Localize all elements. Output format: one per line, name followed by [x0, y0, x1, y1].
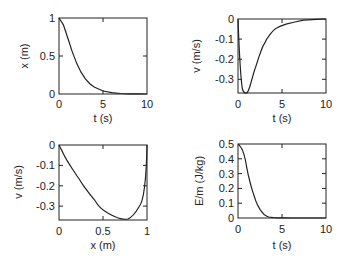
y-axis-label: E/m (J/kg) [193, 156, 205, 206]
data-curve [238, 19, 326, 93]
y-tick-label: -0.2 [215, 53, 234, 65]
y-tick-label: -0.3 [36, 200, 55, 212]
y-tick-label: 0.3 [219, 168, 234, 180]
y-axis-label: v (m/s) [12, 165, 24, 199]
y-tick-label: 0 [49, 88, 55, 100]
x-axis-label: x (m) [90, 239, 115, 251]
plot-frame [59, 145, 147, 220]
x-axis-label: t (s) [273, 239, 292, 251]
plot-frame [59, 18, 147, 94]
tick-marks [238, 144, 326, 218]
y-tick-label: 0 [228, 212, 234, 224]
x-tick-label: 0 [56, 225, 62, 237]
x-axis-label: t (s) [94, 112, 113, 124]
y-tick-label: 0 [49, 139, 55, 151]
y-axis-label: x (m) [18, 43, 30, 68]
panel-v-vs-t: 0 -0.1 -0.2 -0.3 0 5 10 t (s) v (m/s) [190, 13, 332, 124]
x-tick-label: 10 [320, 223, 332, 235]
x-tick-label: 0 [235, 98, 241, 110]
y-tick-label: 0.4 [219, 153, 234, 165]
tick-marks [59, 145, 147, 220]
y-tick-label: -0.1 [36, 159, 55, 171]
x-tick-label: 0.5 [95, 225, 110, 237]
y-axis-label: v (m/s) [190, 39, 202, 73]
x-tick-label: 0 [235, 223, 241, 235]
y-tick-label: 0 [228, 13, 234, 25]
x-tick-label: 10 [320, 98, 332, 110]
data-curve [238, 144, 326, 218]
y-tick-label: 1 [49, 12, 55, 24]
y-tick-label: 0.2 [219, 182, 234, 194]
y-tick-label: 0.1 [219, 197, 234, 209]
panel-energy-vs-t: 0.5 0.4 0.3 0.2 0.1 0 0 5 10 t (s) E/m (… [193, 138, 332, 251]
panel-x-vs-t: 1 0.5 0 0 5 10 t (s) x (m) [18, 12, 153, 124]
data-curve [59, 18, 147, 94]
x-tick-label: 0 [56, 98, 62, 110]
y-tick-label: 0.5 [40, 50, 55, 62]
y-tick-label: 0.5 [219, 138, 234, 150]
x-tick-label: 5 [279, 223, 285, 235]
x-tick-label: 5 [100, 98, 106, 110]
y-tick-label: -0.3 [215, 73, 234, 85]
y-tick-label: -0.1 [215, 33, 234, 45]
x-tick-label: 5 [279, 98, 285, 110]
x-tick-label: 10 [141, 98, 153, 110]
figure: 1 0.5 0 0 5 10 t (s) x (m) 0 -0.1 -0.2 -… [0, 0, 347, 264]
panel-v-vs-x: 0 -0.1 -0.2 -0.3 0 0.5 1 x (m) v (m/s) [12, 139, 150, 251]
x-tick-label: 1 [144, 225, 150, 237]
plot-frame [238, 144, 326, 218]
tick-marks [59, 18, 147, 94]
x-axis-label: t (s) [273, 112, 292, 124]
y-tick-label: -0.2 [36, 180, 55, 192]
data-curve [59, 145, 147, 219]
